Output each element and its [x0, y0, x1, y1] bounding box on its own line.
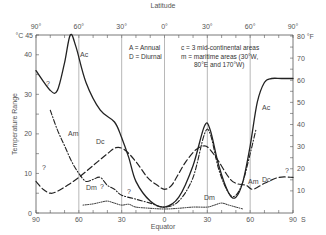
top-tick-label: 60°	[245, 23, 256, 30]
curve-label-dm: Dm	[204, 194, 215, 201]
legend-diurnal: D = Diurnal	[129, 53, 162, 60]
right-tick-label: 60	[297, 77, 305, 84]
left-unit-label: °C 45	[15, 32, 33, 39]
top-tick-label: 90°	[288, 23, 299, 30]
curve-label-dc: Dc	[262, 176, 271, 183]
uncertain-marker: ?	[127, 188, 131, 195]
left-tick-label: 20	[24, 130, 32, 137]
curve-label-ac: Ac	[262, 104, 271, 111]
right-tick-label: 10	[297, 187, 305, 194]
top-tick-label: 90°	[31, 23, 42, 30]
bottom-tick-label: 60	[246, 216, 254, 223]
temperature-range-chart: 90°60°30°0°30°60°90°9060300306090S010203…	[0, 0, 326, 235]
right-tick-label: 50	[297, 99, 305, 106]
legend-maritime: m = maritime areas (30°W,	[181, 53, 258, 61]
curve-label-dm: Dm	[86, 184, 97, 191]
curve-label-am: Am	[248, 178, 259, 185]
left-tick-label: 10	[24, 170, 32, 177]
bottom-tick-label: 30	[203, 216, 211, 223]
curve-am	[50, 110, 256, 207]
curve-label-dc: Dc	[96, 138, 105, 145]
left-tick-label: 0	[28, 210, 32, 217]
left-axis-title: Temperature Range	[11, 93, 19, 155]
bottom-tick-label: 90	[32, 216, 40, 223]
left-tick-label: 40	[24, 51, 32, 58]
top-tick-label: 30°	[202, 23, 213, 30]
right-tick-label: 40	[297, 121, 305, 128]
uncertain-marker: ?	[285, 167, 289, 174]
south-label: S	[301, 216, 306, 223]
bottom-axis-title: Equator	[151, 223, 176, 231]
top-tick-label: 0°	[161, 23, 168, 30]
right-tick-label: 70	[297, 55, 305, 62]
right-tick-label: 20	[297, 165, 305, 172]
curve-label-ac: Ac	[80, 51, 89, 58]
top-axis-title: Latitude	[151, 2, 176, 9]
bottom-tick-label: 0	[163, 216, 167, 223]
right-tick-label: 80 °F	[297, 33, 314, 40]
legend: A = Annual D = Diurnal c = 3 mid-contine…	[129, 44, 260, 69]
bottom-tick-label: 90	[289, 216, 297, 223]
uncertain-marker: ?	[42, 164, 46, 171]
curve-label-am: Am	[68, 130, 79, 137]
legend-continental: c = 3 mid-continental areas	[181, 44, 260, 51]
uncertain-marker: ?	[46, 80, 50, 87]
bottom-tick-label: 30	[118, 216, 126, 223]
bottom-tick-label: 60	[75, 216, 83, 223]
left-tick-label: 30	[24, 91, 32, 98]
legend-maritime-cont: 80°E and 170°W)	[194, 61, 244, 69]
top-tick-label: 30°	[116, 23, 127, 30]
right-tick-label: 30	[297, 143, 305, 150]
legend-annual: A = Annual	[129, 44, 161, 51]
top-tick-label: 60°	[74, 23, 85, 30]
uncertain-marker: ?	[100, 183, 104, 190]
